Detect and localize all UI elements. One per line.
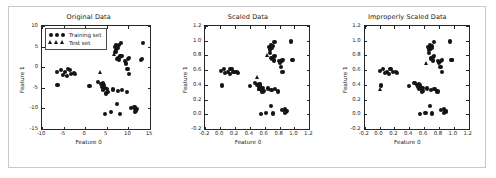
- x-tick: [150, 127, 151, 130]
- y-tick: [42, 26, 45, 27]
- y-tick: [466, 85, 469, 86]
- x-tick: [409, 127, 410, 130]
- x-tick-label: 1.0: [289, 130, 297, 136]
- y-tick: [466, 70, 469, 71]
- y-tick: [148, 47, 151, 48]
- x-tick-label: 1.2: [304, 130, 312, 136]
- y-tick-label: 0.8: [352, 51, 360, 57]
- y-tick: [307, 55, 310, 56]
- x-tick-label: 0.8: [434, 130, 442, 136]
- y-axis-label: Feature 1: [182, 66, 188, 92]
- circle-marker: [430, 111, 434, 115]
- triangle-marker: [265, 53, 269, 57]
- circle-marker: [450, 58, 454, 62]
- circle-marker: [220, 83, 224, 87]
- x-tick: [394, 26, 395, 29]
- y-tick: [307, 100, 310, 101]
- circle-marker: [127, 56, 131, 60]
- circle-marker: [140, 57, 144, 61]
- y-tick-label: 1.2: [193, 22, 201, 28]
- circle-marker: [124, 61, 128, 65]
- y-tick: [205, 70, 208, 71]
- circle-marker: [420, 89, 424, 93]
- circle-marker: [435, 89, 439, 93]
- y-tick-label: 1.0: [193, 37, 201, 43]
- y-tick-label: 10: [31, 22, 38, 28]
- chart-title: Improperly Scaled Data: [328, 13, 487, 21]
- circle-marker: [259, 112, 263, 116]
- circle-marker: [432, 54, 436, 58]
- x-axis-label: Feature 0: [168, 139, 327, 145]
- y-tick: [365, 114, 368, 115]
- triangle-marker: [112, 52, 116, 56]
- circle-marker: [289, 39, 293, 43]
- x-tick: [250, 127, 251, 130]
- y-tick-label: 0.0: [193, 110, 201, 116]
- x-tick-label: 0.2: [389, 130, 397, 136]
- y-tick-label: 0: [35, 63, 38, 69]
- y-tick-label: 0.2: [193, 96, 201, 102]
- circle-marker: [109, 110, 113, 114]
- y-tick: [466, 26, 469, 27]
- x-tick: [309, 26, 310, 29]
- x-tick: [265, 127, 266, 130]
- circle-marker: [125, 90, 129, 94]
- x-tick: [439, 127, 440, 130]
- y-tick: [365, 85, 368, 86]
- y-tick: [466, 55, 469, 56]
- x-tick: [424, 127, 425, 130]
- y-tick: [205, 100, 208, 101]
- x-tick-label: 1.2: [463, 130, 471, 136]
- y-tick-label: 0.8: [193, 51, 201, 57]
- y-tick: [42, 88, 45, 89]
- chart-title: Scaled Data: [168, 13, 327, 21]
- legend-item: Training set: [48, 31, 103, 39]
- x-tick: [380, 127, 381, 130]
- x-tick: [265, 26, 266, 29]
- x-tick: [469, 26, 470, 29]
- circle-marker: [272, 54, 276, 58]
- y-tick: [42, 108, 45, 109]
- circle-marker: [423, 111, 427, 115]
- circle-marker: [141, 41, 145, 45]
- y-tick: [205, 41, 208, 42]
- triangle-marker: [255, 75, 259, 79]
- x-tick: [454, 127, 455, 130]
- circle-marker: [395, 71, 399, 75]
- y-tick: [148, 88, 151, 89]
- y-tick-label: 0.6: [193, 66, 201, 72]
- circle-marker: [248, 84, 252, 88]
- plot-area: [204, 25, 310, 130]
- y-tick-label: -10: [29, 104, 38, 110]
- circle-marker: [118, 112, 122, 116]
- x-tick: [309, 127, 310, 130]
- y-tick: [365, 100, 368, 101]
- y-tick-label: 0.4: [193, 81, 201, 87]
- y-tick-label: 0.2: [352, 96, 360, 102]
- x-tick: [235, 26, 236, 29]
- y-axis-label: Feature 1: [342, 66, 348, 92]
- y-tick-label: 0.6: [352, 66, 360, 72]
- triangle-marker: [378, 87, 382, 91]
- x-tick-label: 0.2: [230, 130, 238, 136]
- chart-legend: Training setTest set: [45, 28, 107, 50]
- y-tick: [148, 108, 151, 109]
- x-tick-label: 0.4: [404, 130, 412, 136]
- y-tick-label: 1.2: [352, 22, 360, 28]
- circle-marker: [279, 65, 283, 69]
- y-tick: [307, 26, 310, 27]
- x-tick: [280, 26, 281, 29]
- y-tick-label: 1.0: [352, 37, 360, 43]
- circle-marker: [119, 54, 123, 58]
- x-tick: [250, 26, 251, 29]
- circle-marker: [291, 58, 295, 62]
- circle-marker: [444, 109, 448, 113]
- triangle-marker: [98, 70, 102, 74]
- y-tick: [365, 26, 368, 27]
- x-tick-label: 1.0: [449, 130, 457, 136]
- x-tick-label: -5: [60, 130, 65, 136]
- circle-marker: [73, 72, 77, 76]
- x-tick-label: 10: [124, 130, 131, 136]
- x-tick: [409, 26, 410, 29]
- circle-marker: [276, 89, 280, 93]
